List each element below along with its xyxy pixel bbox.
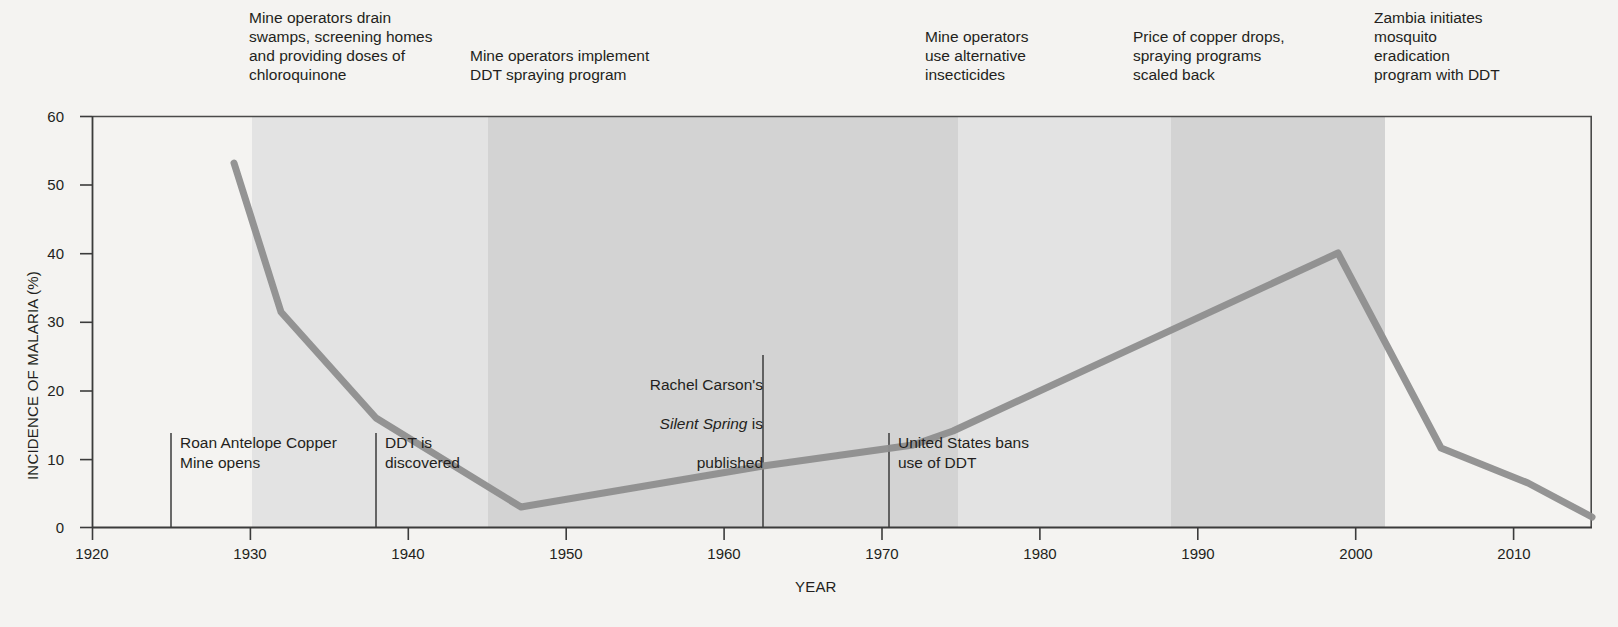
silent-spring-book-title: Silent Spring xyxy=(660,415,748,432)
x-tick-label-2010: 2010 xyxy=(1479,545,1549,562)
inner-annotation-roan-antelope: Roan Antelope Copper Mine opens xyxy=(171,433,395,472)
x-tick-marks xyxy=(93,528,1514,540)
y-tick-label-40: 40 xyxy=(34,245,64,262)
inner-annotation-us-bans-ddt: United States bans use of DDT xyxy=(889,433,1088,472)
silent-spring-line-3: published xyxy=(697,454,763,471)
inner-annotation-ddt-discovered: DDT is discovered xyxy=(376,433,515,472)
y-axis-title: INCIDENCE OF MALARIA (%) xyxy=(24,271,41,480)
x-tick-label-1940: 1940 xyxy=(373,545,443,562)
silent-spring-line-2-tail: is xyxy=(748,415,764,432)
x-axis-title: YEAR xyxy=(795,578,837,595)
x-tick-label-1970: 1970 xyxy=(847,545,917,562)
inner-annotation-silent-spring: Rachel Carson's Silent Spring is publish… xyxy=(563,355,772,472)
y-tick-label-50: 50 xyxy=(34,176,64,193)
y-tick-marks xyxy=(80,117,92,528)
x-tick-label-1920: 1920 xyxy=(57,545,127,562)
band-copper-price xyxy=(1171,116,1385,528)
x-tick-label-1930: 1930 xyxy=(215,545,285,562)
malaria-incidence-figure: Mine operators drain swamps, screening h… xyxy=(0,0,1618,627)
y-tick-label-60: 60 xyxy=(34,108,64,125)
silent-spring-line-1: Rachel Carson's xyxy=(650,376,763,393)
chart-plot-area xyxy=(0,0,1618,627)
x-tick-label-1980: 1980 xyxy=(1005,545,1075,562)
x-tick-label-1960: 1960 xyxy=(689,545,759,562)
x-tick-label-1950: 1950 xyxy=(531,545,601,562)
y-tick-label-0: 0 xyxy=(34,519,64,536)
x-tick-label-2000: 2000 xyxy=(1321,545,1391,562)
x-tick-label-1990: 1990 xyxy=(1163,545,1233,562)
